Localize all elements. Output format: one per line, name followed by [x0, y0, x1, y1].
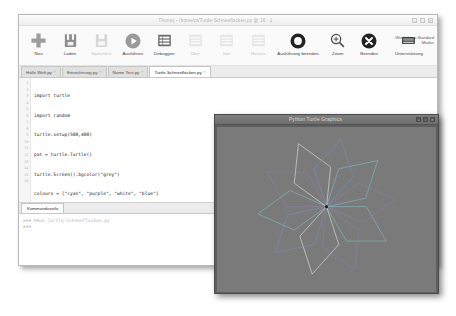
- console-prompt: >>>: [23, 224, 34, 229]
- toolbar-label-debug: Debuggen: [154, 51, 175, 56]
- toolbar-button-step-out: Heraus: [243, 29, 274, 56]
- load-icon: [62, 31, 79, 50]
- run-icon: [124, 31, 142, 50]
- toolbar-button-stop[interactable]: Ausführung beenden: [274, 29, 322, 56]
- zoom-icon: [329, 31, 346, 50]
- toolbar-label-support: Unterstützung: [395, 51, 423, 56]
- toolbar-label-run: Ausführen: [123, 51, 143, 56]
- toolbar-label-stop: Ausführung beenden: [277, 51, 319, 56]
- console-command: %Run Turtle-Schneeflocken.py: [34, 218, 110, 223]
- turtle-rosette-drawing: [217, 127, 436, 292]
- maximize-button[interactable]: □: [420, 18, 425, 23]
- toolbar-label-new: Neu: [35, 51, 43, 56]
- editor-tab-label: Name Test.py: [113, 70, 140, 75]
- toolbar-button-quit[interactable]: Beenden: [353, 29, 384, 56]
- editor-tab-name-test[interactable]: Name Test.py ×: [108, 66, 149, 77]
- toolbar-button-run[interactable]: Ausführen: [117, 29, 148, 56]
- toolbar-button-zoom[interactable]: Zoom: [322, 29, 353, 56]
- turtle-cursor: [325, 205, 328, 208]
- line-number-gutter: 1 2 3 4 5 6 7 8 9 10 11 12 13 14 15 16: [19, 78, 31, 202]
- turtle-window-controls: – □ ✕: [416, 117, 435, 122]
- editor-tab-hallo-welt[interactable]: Hallo Welt.py ×: [21, 66, 61, 77]
- console-tab-kommandozeile[interactable]: Kommandozeile: [21, 203, 64, 213]
- turtle-titlebar[interactable]: Python Turtle Graphics – □ ✕: [215, 115, 438, 125]
- console-prompt: >>>: [23, 218, 34, 223]
- line-number: 16: [19, 178, 30, 185]
- toolbar-label-step-into: Into: [223, 51, 231, 56]
- turtle-window-title: Python Turtle Graphics: [215, 117, 416, 122]
- turtle-canvas-wrapper: [215, 125, 438, 294]
- screen-root: Thonny - /home/pi/Turtle-Schneeflocken.p…: [0, 0, 456, 316]
- ide-window-title: Thonny - /home/pi/Turtle-Schneeflocken.p…: [19, 18, 412, 23]
- editor-tab-label: Einrechnung.py: [67, 70, 98, 75]
- code-line: import turtle: [34, 93, 437, 100]
- turtle-drawing-canvas[interactable]: [217, 127, 436, 292]
- editor-tab-einrechnung[interactable]: Einrechnung.py ×: [62, 66, 107, 77]
- step-over-icon: [187, 31, 204, 50]
- toolbar-label-step-out: Heraus: [251, 51, 265, 56]
- toolbar-button-debug[interactable]: Debuggen: [148, 29, 179, 56]
- window-controls: – □ ✕: [412, 18, 433, 23]
- toolbar-label-zoom: Zoom: [332, 51, 343, 56]
- quit-icon: [360, 31, 378, 50]
- save-icon: [93, 31, 110, 50]
- toolbar-label-step-over: Über: [191, 51, 201, 56]
- toolbar-button-save: Speichern: [86, 29, 117, 56]
- ide-titlebar[interactable]: Thonny - /home/pi/Turtle-Schneeflocken.p…: [19, 15, 437, 26]
- close-icon[interactable]: ×: [54, 70, 56, 74]
- turtle-minimize-button[interactable]: –: [416, 117, 421, 122]
- toolbar-button-new[interactable]: Neu: [23, 29, 54, 56]
- new-file-icon: [30, 31, 47, 50]
- editor-tab-label: Hallo Welt.py: [26, 70, 52, 75]
- mode-switch-link[interactable]: Wechsle zu Standard Modus: [394, 35, 434, 46]
- turtle-maximize-button[interactable]: □: [423, 117, 428, 122]
- close-icon[interactable]: ×: [204, 70, 206, 74]
- editor-tab-turtle-schneeflocken[interactable]: Turtle-Schneeflocken.py ×: [149, 66, 210, 77]
- step-into-icon: [218, 31, 235, 50]
- editor-tabbar: Hallo Welt.py × Einrechnung.py × Name Te…: [19, 66, 437, 78]
- toolbar-button-step-into: Into: [211, 29, 242, 56]
- close-icon[interactable]: ×: [99, 70, 101, 74]
- toolbar: Neu Laden: [19, 26, 437, 66]
- turtle-graphics-window: Python Turtle Graphics – □ ✕: [214, 114, 439, 294]
- minimize-button[interactable]: –: [412, 18, 417, 23]
- turtle-close-button[interactable]: ✕: [430, 117, 435, 122]
- step-out-icon: [250, 31, 267, 50]
- toolbar-button-load[interactable]: Laden: [54, 29, 85, 56]
- toolbar-button-step-over: Über: [180, 29, 211, 56]
- debug-icon: [156, 31, 173, 50]
- close-button[interactable]: ✕: [428, 18, 433, 23]
- toolbar-label-save: Speichern: [91, 51, 111, 56]
- toolbar-label-quit: Beenden: [360, 51, 378, 56]
- editor-tab-label: Turtle-Schneeflocken.py: [154, 70, 201, 75]
- stop-icon: [289, 31, 307, 50]
- toolbar-label-load: Laden: [64, 51, 76, 56]
- close-icon[interactable]: ×: [141, 70, 143, 74]
